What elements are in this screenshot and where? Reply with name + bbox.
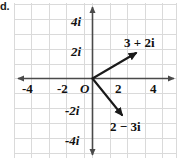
x-tick-label-pos4: 4 (150, 82, 157, 95)
x-tick-label-pos2: 2 (115, 82, 122, 95)
y-tick-label-neg4i: -4i (65, 134, 79, 147)
origin-label: O (80, 82, 89, 95)
vector-label-3-plus-2i: 3 + 2i (124, 36, 155, 49)
y-tick-label-pos2i: 2i (71, 45, 81, 58)
y-tick-label-neg2i: -2i (65, 104, 79, 117)
x-tick-label-neg4: -4 (22, 82, 33, 95)
vector-3-plus-2i (93, 53, 137, 79)
y-tick-label-pos4i: 4i (71, 15, 81, 28)
x-tick-label-neg2: -2 (57, 82, 68, 95)
complex-plane-figure: d. (0, 0, 177, 158)
plot-area: -4 -2 O 2 4 4i 2i -2i -4i 3 + 2i 2 − 3i (14, 3, 177, 158)
vector-label-2-minus-3i: 2 − 3i (110, 120, 141, 133)
part-label: d. (0, 0, 9, 12)
